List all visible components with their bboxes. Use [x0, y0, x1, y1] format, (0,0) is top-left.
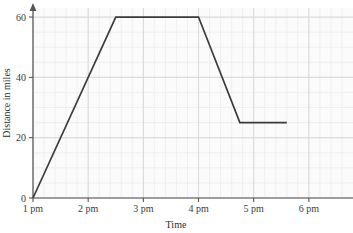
y-axis-title: Distance in miles	[1, 68, 12, 138]
chart-canvas: 1 pm2 pm3 pm4 pm5 pm6 pm 0204060 Time Di…	[0, 0, 353, 233]
x-axis-ticks	[33, 198, 309, 202]
x-tick-label: 6 pm	[299, 203, 320, 214]
y-tick-label: 20	[16, 132, 26, 143]
y-tick-label: 60	[16, 12, 26, 23]
y-tick-label: 0	[21, 193, 26, 204]
x-axis-title: Time	[166, 219, 187, 230]
y-tick-label: 40	[16, 72, 26, 83]
x-axis-tick-labels: 1 pm2 pm3 pm4 pm5 pm6 pm	[23, 203, 319, 214]
y-axis-arrow-icon	[30, 3, 37, 11]
x-tick-label: 1 pm	[23, 203, 44, 214]
distance-time-chart: 1 pm2 pm3 pm4 pm5 pm6 pm 0204060 Time Di…	[0, 0, 353, 233]
plot-background	[33, 8, 353, 198]
y-axis-tick-labels: 0204060	[16, 12, 26, 204]
x-tick-label: 2 pm	[78, 203, 99, 214]
x-tick-label: 4 pm	[188, 203, 209, 214]
x-tick-label: 3 pm	[133, 203, 154, 214]
x-tick-label: 5 pm	[244, 203, 265, 214]
